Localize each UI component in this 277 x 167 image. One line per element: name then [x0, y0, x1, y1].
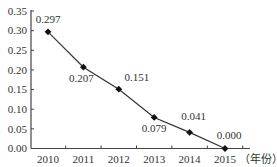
y-tick-label: 0.15 — [8, 83, 28, 95]
x-axis: 201020112012201320142015（年份） — [31, 146, 277, 166]
y-tick-label: 0.10 — [8, 103, 28, 115]
y-tick-label: 0.20 — [8, 64, 28, 76]
y-tick-label: 0.00 — [8, 142, 28, 154]
data-series — [45, 28, 229, 151]
y-tick-label: 0.25 — [8, 44, 28, 56]
diamond-marker — [222, 145, 229, 152]
data-point-label: 0.207 — [69, 72, 94, 84]
data-point-label: 0.297 — [36, 13, 61, 25]
data-labels: 0.2970.2070.1510.0790.0410.000 — [36, 13, 242, 141]
data-point-label: 0.151 — [124, 71, 149, 83]
y-tick-label: 0.05 — [8, 123, 28, 135]
data-point-label: 0.041 — [181, 110, 206, 122]
x-tick-label: 2011 — [73, 153, 95, 165]
data-point-label: 0.079 — [142, 122, 167, 134]
diamond-marker — [186, 129, 193, 136]
data-point-label: 0.000 — [217, 129, 242, 141]
y-tick-label: 0.35 — [8, 5, 28, 17]
y-axis: 0.000.050.100.150.200.250.300.35 — [8, 5, 34, 155]
x-tick-label: 2015 — [214, 153, 237, 165]
x-tick-label: 2014 — [179, 153, 202, 165]
x-axis-title: （年份） — [239, 152, 277, 165]
line-chart: 0.000.050.100.150.200.250.300.35 2010201… — [0, 0, 277, 167]
y-tick-label: 0.30 — [8, 24, 28, 36]
x-tick-label: 2012 — [108, 153, 130, 165]
x-tick-label: 2010 — [37, 153, 60, 165]
x-tick-label: 2013 — [143, 153, 166, 165]
